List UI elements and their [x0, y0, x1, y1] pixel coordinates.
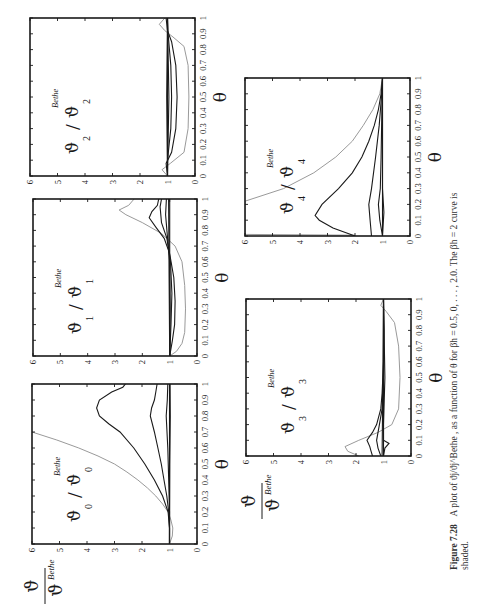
theta-tick-label: 0.9 [200, 209, 210, 220]
value-tick-label: 6 [27, 548, 37, 552]
svg-text:ϑ: ϑ [45, 583, 66, 596]
svg-text:4: 4 [296, 159, 307, 164]
svg-text:Bethe: Bethe [50, 88, 60, 108]
svg-text:Bethe: Bethe [52, 456, 62, 476]
svg-text:ϑ: ϑ [278, 386, 298, 398]
svg-text:/: / [62, 124, 82, 130]
caption-line2: shaded. [460, 541, 470, 570]
theta-tick-label: 0.6 [413, 136, 423, 147]
theta-tick-label: 0.9 [414, 309, 424, 320]
value-tick-label: 0 [405, 240, 415, 244]
value-tick-label: 2 [135, 180, 145, 184]
theta-tick-label: 0.4 [200, 474, 210, 485]
theta-tick-label: 0 [198, 174, 208, 178]
value-tick-label: 6 [25, 180, 35, 184]
theta-tick-label: 0.7 [200, 427, 210, 438]
theta-tick-label: 0.5 [200, 459, 210, 470]
figure-caption: Figure 7.28 A plot of ϑj/ϑj^Bethe , as a… [449, 192, 470, 570]
value-tick-label: 3 [110, 360, 120, 364]
value-tick-label: 2 [137, 360, 147, 364]
theta-tick-label: 0.8 [413, 104, 423, 115]
value-tick-label: 1 [163, 180, 173, 184]
svg-text:2: 2 [81, 136, 92, 141]
theta-tick-label: 0.2 [414, 419, 424, 430]
shared-ylabel-0: ϑ ϑ Bethe [21, 560, 66, 605]
curve--h-1.5 [367, 299, 384, 456]
svg-text:/: / [278, 404, 298, 410]
svg-text:ϑ: ϑ [278, 422, 298, 434]
svg-text:ϑ: ϑ [64, 510, 84, 522]
svg-text:Bethe: Bethe [266, 368, 276, 388]
theta-tick-label: 1 [413, 76, 423, 80]
curve--h-1.5 [315, 78, 382, 236]
theta-tick-label: 0 [200, 542, 210, 546]
svg-text:1: 1 [84, 279, 95, 284]
value-tick-label: 3 [110, 548, 120, 552]
theta-tick-label: 0.5 [200, 272, 210, 283]
theta-tick-label: 0.5 [413, 152, 423, 163]
theta-tick-label: 0.5 [414, 372, 424, 383]
theta-tick-label: 0.4 [200, 287, 210, 298]
value-tick-label: 0 [192, 360, 202, 364]
svg-text:/: / [64, 492, 84, 498]
value-tick-label: 5 [53, 180, 63, 184]
theta-tick-label: 1 [198, 16, 208, 20]
theta-tick-label: 0.5 [198, 92, 208, 103]
plot-curves [119, 199, 185, 356]
theta-tick-label: 0.7 [200, 241, 210, 252]
theta-tick-label: 0.2 [413, 199, 423, 210]
curve--h-0.5 [378, 78, 382, 236]
theta-tick-label: 0.2 [198, 139, 208, 150]
value-tick-label: 0 [406, 460, 416, 464]
theta-tick-label: 0.4 [414, 387, 424, 398]
svg-text:/: / [277, 184, 297, 190]
theta-tick-label: 0.1 [198, 155, 208, 166]
theta-axis-label: θ [210, 92, 230, 102]
theta-tick-label: 0.6 [200, 443, 210, 454]
theta-tick-label: 0.9 [198, 28, 208, 39]
theta-tick-label: 0 [413, 234, 423, 238]
svg-text:ϑ: ϑ [238, 494, 259, 507]
svg-text:ϑ: ϑ [21, 579, 42, 592]
svg-text:Bethe: Bethe [46, 560, 56, 581]
shared-ylabel-3: ϑ ϑ Bethe [238, 475, 283, 520]
svg-text:4: 4 [296, 196, 307, 201]
value-tick-label: 2 [350, 240, 360, 244]
theta-tick-label: 0 [200, 354, 210, 358]
value-tick-label: 5 [55, 548, 65, 552]
svg-text:ϑ: ϑ [64, 474, 84, 486]
theta-tick-label: 0 [414, 454, 424, 458]
theta-tick-label: 0.9 [413, 88, 423, 99]
svg-text:/: / [65, 304, 85, 310]
svg-text:ϑ: ϑ [65, 322, 85, 334]
value-tick-label: 6 [240, 240, 250, 244]
theta-axis-label: θ [425, 152, 445, 162]
value-tick-label: 4 [296, 459, 306, 464]
curve--h-2.0-shaded- [32, 432, 173, 544]
value-tick-label: 1 [379, 460, 389, 464]
plot-panel-2: 012345600.10.20.30.40.50.60.70.80.91θϑ2/… [25, 16, 230, 184]
value-tick-label: 5 [268, 240, 278, 244]
value-tick-label: 0 [190, 180, 200, 184]
inset-label: ϑ0/ϑ0Bethe [52, 456, 94, 522]
theta-tick-label: 0.4 [413, 167, 423, 178]
theta-tick-label: 0.9 [200, 395, 210, 406]
value-tick-label: 1 [165, 548, 175, 552]
theta-tick-label: 1 [200, 197, 210, 201]
plot-curves [345, 299, 400, 456]
value-tick-label: 4 [295, 239, 305, 244]
svg-text:0: 0 [83, 467, 94, 472]
plot-panel-1: 012345600.10.20.30.40.50.60.70.80.91θϑ1/… [28, 197, 232, 364]
value-tick-label: 3 [323, 240, 333, 244]
svg-text:2: 2 [81, 99, 92, 104]
curve--h-2.0-shaded- [159, 18, 189, 176]
value-tick-label: 6 [28, 360, 38, 364]
value-tick-label: 0 [192, 548, 202, 552]
svg-text:ϑ: ϑ [62, 142, 82, 154]
svg-text:ϑ: ϑ [277, 202, 297, 214]
theta-tick-label: 0.7 [414, 341, 424, 352]
inset-label: ϑ1/ϑ1Bethe [53, 268, 95, 334]
curve--h-0.5 [384, 299, 390, 456]
theta-tick-label: 0.3 [414, 404, 424, 415]
theta-tick-label: 0.6 [414, 356, 424, 367]
